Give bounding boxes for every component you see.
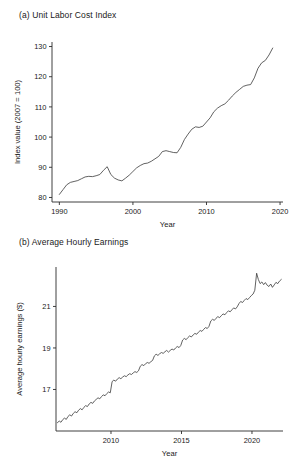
x-tick-label: 2015 xyxy=(173,436,189,445)
x-tick-label: 2020 xyxy=(244,436,260,445)
y-axis-label: Index value (2007 = 100) xyxy=(13,79,22,164)
x-tick-label: 2010 xyxy=(103,436,119,445)
x-tick-label: 2000 xyxy=(125,207,141,216)
x-tick-label: 2020 xyxy=(272,207,288,216)
y-tick-label: 21 xyxy=(42,302,50,311)
y-axis-label: Average hourly earnings ($) xyxy=(15,302,24,396)
x-tick-label: 2010 xyxy=(198,207,214,216)
y-tick-label: 19 xyxy=(42,344,50,353)
panel-unit-labor-cost-index: (a) Unit Labor Cost Index 80901001101201… xyxy=(0,0,301,228)
x-axis-label: Year xyxy=(162,449,178,456)
data-series-line xyxy=(59,48,272,194)
y-tick-label: 110 xyxy=(35,103,47,112)
y-tick-label: 100 xyxy=(34,133,46,142)
y-tick-label: 80 xyxy=(38,193,46,202)
x-tick-label: 1990 xyxy=(51,207,67,216)
data-series-line xyxy=(57,273,281,422)
y-tick-label: 90 xyxy=(38,163,46,172)
chart-average-hourly-earnings: 171921201020152020YearAverage hourly ear… xyxy=(0,245,301,455)
chart-unit-labor-cost-index: 80901001101201301990200020102020YearInde… xyxy=(0,18,301,223)
y-tick-label: 130 xyxy=(34,42,46,51)
panel-average-hourly-earnings: (b) Average Hourly Earnings 171921201020… xyxy=(0,228,301,456)
y-tick-label: 120 xyxy=(34,72,46,81)
y-tick-label: 17 xyxy=(42,385,50,394)
